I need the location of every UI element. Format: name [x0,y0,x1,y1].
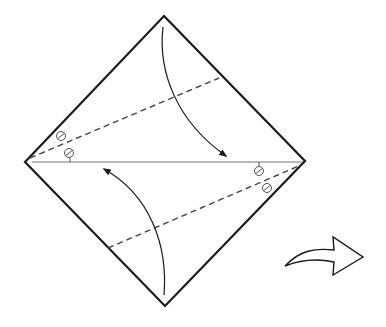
paper-diamond [25,16,305,306]
origami-diagram [0,0,386,327]
turn-over-arrow-icon [285,237,363,275]
